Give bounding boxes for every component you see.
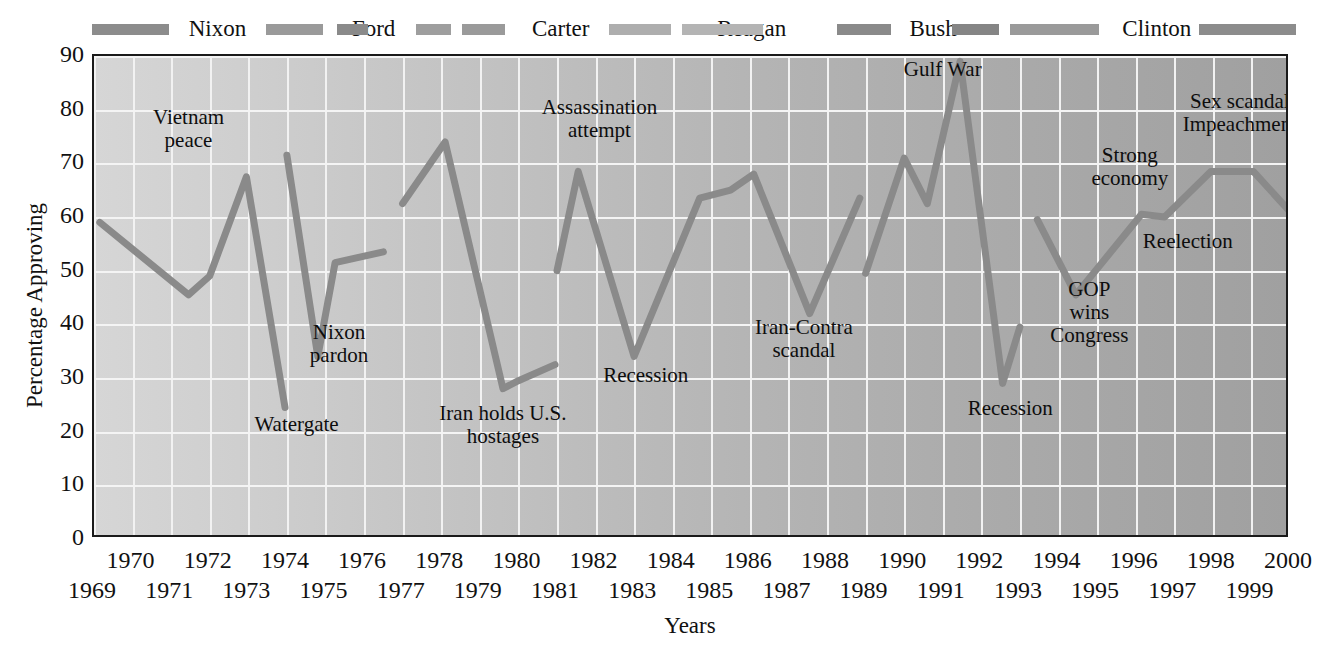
x-tick-label-lower: 1989	[840, 577, 888, 603]
legend-swatch	[462, 24, 504, 35]
annotation-label: GOP wins Congress	[1050, 278, 1128, 347]
x-tick-label-lower: 1977	[377, 577, 425, 603]
legend-swatch	[1010, 24, 1099, 35]
x-tick-label-lower: 1971	[145, 577, 193, 603]
annotation-label: Reelection	[1143, 230, 1233, 253]
legend-swatch	[682, 24, 763, 35]
x-tick-label-lower: 1981	[531, 577, 579, 603]
y-tick-label: 80	[14, 96, 84, 120]
legend-label-carter: Carter	[532, 16, 589, 42]
x-tick-label-lower: 1995	[1071, 577, 1119, 603]
line-segment-carter	[403, 142, 555, 389]
x-tick-label-lower: 1993	[994, 577, 1042, 603]
x-tick-label-upper: 2000	[1264, 547, 1312, 573]
legend-swatch	[416, 24, 451, 35]
x-tick-label-lower: 1991	[917, 577, 965, 603]
x-tick-label-upper: 1974	[261, 547, 309, 573]
x-tick-label-upper: 1972	[184, 547, 232, 573]
x-tick-label-lower: 1997	[1148, 577, 1196, 603]
line-segment-nixon	[100, 177, 285, 408]
annotation-label: Assassination attempt	[542, 96, 658, 142]
annotation-label: Nixon pardon	[310, 321, 368, 367]
x-tick-label-upper: 1980	[492, 547, 540, 573]
legend-swatch	[1199, 24, 1295, 35]
x-tick-label-lower: 1979	[454, 577, 502, 603]
y-tick-label: 70	[14, 149, 84, 173]
legend-swatch	[266, 24, 324, 35]
annotation-label: Sex scandal Impeachment	[1183, 90, 1288, 136]
x-tick-label-upper: 1986	[724, 547, 772, 573]
y-tick-label: 10	[14, 471, 84, 495]
x-tick-label-upper: 1978	[415, 547, 463, 573]
x-tick-label-upper: 1984	[647, 547, 695, 573]
x-tick-label-upper: 1988	[801, 547, 849, 573]
legend-label-bush: Bush	[909, 16, 956, 42]
legend-swatch	[609, 24, 671, 35]
y-tick-label: 20	[14, 418, 84, 442]
annotation-label: Vietnam peace	[153, 106, 224, 152]
annotation-label: Recession	[968, 397, 1053, 420]
annotation-label: Gulf War	[904, 58, 982, 81]
line-segment-bush	[866, 61, 1020, 383]
legend-swatch	[337, 24, 368, 35]
x-tick-label-upper: 1994	[1033, 547, 1081, 573]
x-axis-label: Years	[620, 613, 760, 639]
legend-swatch	[837, 24, 891, 35]
legend-label-clinton: Clinton	[1122, 16, 1191, 42]
x-tick-label-lower: 1973	[222, 577, 270, 603]
x-tick-label-upper: 1992	[955, 547, 1003, 573]
annotation-label: Recession	[603, 364, 688, 387]
annotation-label: Strong economy	[1091, 144, 1168, 190]
y-tick-label: 0	[14, 525, 84, 549]
legend-swatch	[952, 24, 998, 35]
x-tick-label-upper: 1982	[570, 547, 618, 573]
legend-label-nixon: Nixon	[189, 16, 247, 42]
x-tick-label-lower: 1985	[685, 577, 733, 603]
x-tick-label-upper: 1996	[1110, 547, 1158, 573]
y-tick-label: 90	[14, 42, 84, 66]
legend-swatch	[92, 24, 169, 35]
x-tick-label-upper: 1976	[338, 547, 386, 573]
x-tick-label-lower: 1969	[68, 577, 116, 603]
annotation-label: Iran holds U.S. hostages	[439, 402, 566, 448]
annotation-label: Iran-Contra scandal	[755, 316, 853, 362]
chart-legend: NixonFordCarterReaganBushClinton	[0, 18, 1336, 44]
annotation-label: Watergate	[254, 413, 338, 436]
x-tick-label-lower: 1987	[762, 577, 810, 603]
chart-figure: NixonFordCarterReaganBushClinton Vietnam…	[0, 0, 1336, 655]
x-tick-label-upper: 1970	[107, 547, 155, 573]
x-tick-label-upper: 1990	[878, 547, 926, 573]
x-tick-label-upper: 1998	[1187, 547, 1235, 573]
x-tick-label-lower: 1983	[608, 577, 656, 603]
y-axis-label: Percentage Approving	[22, 202, 48, 407]
x-tick-label-lower: 1975	[299, 577, 347, 603]
plot-area: Vietnam peaceWatergateNixon pardonIran h…	[92, 54, 1288, 537]
x-tick-label-lower: 1999	[1225, 577, 1273, 603]
